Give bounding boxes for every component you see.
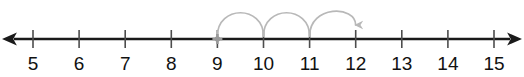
tick-label: 13 (391, 53, 412, 74)
tick-label: 14 (437, 53, 459, 74)
tick-label: 6 (74, 53, 85, 74)
tick-label: 12 (345, 53, 366, 74)
tick-label: 10 (253, 53, 274, 74)
tick-group: 56789101112131415 (28, 30, 505, 74)
number-line-svg: 56789101112131415 (0, 0, 524, 77)
jump-arc (264, 13, 310, 36)
start-marker (212, 34, 222, 44)
tick-label: 8 (166, 53, 177, 74)
tick-label: 15 (483, 53, 504, 74)
tick-label: 9 (212, 53, 223, 74)
jump-arc (310, 11, 356, 36)
jump-arc (217, 13, 263, 36)
tick-label: 7 (120, 53, 131, 74)
number-line-figure: 56789101112131415 (0, 0, 524, 77)
tick-label: 11 (300, 53, 320, 74)
tick-label: 5 (28, 53, 39, 74)
jump-arcs-group (217, 11, 355, 36)
